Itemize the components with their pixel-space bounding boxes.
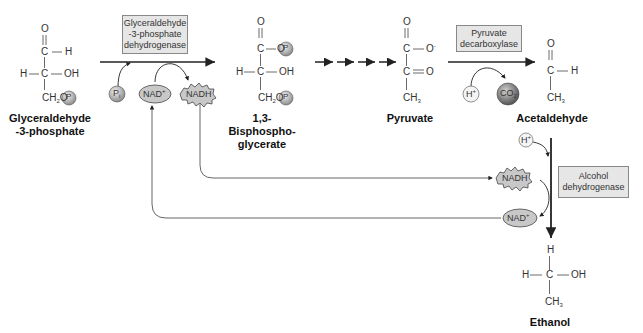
atom-ch3: CH3 — [545, 296, 563, 308]
atom: O — [547, 38, 555, 49]
enzyme-gapdh-line3: dehydrogenase — [124, 40, 187, 51]
atom: C — [41, 46, 48, 57]
atom: H — [571, 65, 578, 76]
atom: O — [257, 16, 265, 27]
nadh-label-1: NADH — [186, 89, 212, 99]
compound-g3p: Glyceraldehyde -3-phosphate — [5, 112, 95, 138]
pathway-graphics — [0, 0, 643, 333]
enzyme-gapdh-line2: -3-phosphate — [124, 29, 187, 40]
enzyme-adh: Alcohol dehydrogenase — [558, 166, 629, 198]
h-plus-label-1: H+ — [466, 88, 476, 99]
atom: O — [426, 66, 434, 77]
compound-bpg-line1: 1,3-Bisphospho- — [222, 112, 302, 138]
atom: O — [403, 16, 411, 27]
atom: C — [547, 65, 554, 76]
atom-ch2o: CH2O — [42, 92, 68, 104]
atom-ch2o: CH2O — [258, 92, 284, 104]
atom: C — [403, 66, 410, 77]
atom: C — [41, 68, 48, 79]
nadh-label-2: NADH — [502, 173, 528, 183]
atom: H — [20, 68, 27, 79]
compound-ethanol: Ethanol — [525, 316, 575, 329]
enzyme-pdc: Pyruvate decarboxylase — [456, 25, 522, 52]
enzyme-pdc-line1: Pyruvate — [460, 28, 518, 39]
nad-label-2: NAD+ — [507, 212, 530, 223]
atom: OH — [64, 68, 79, 79]
atom: H — [547, 244, 554, 255]
enzyme-adh-line2: dehydrogenase — [562, 182, 624, 193]
compound-acetaldehyde: Acetaldehyde — [512, 112, 592, 125]
pi-curve — [118, 63, 130, 88]
h-plus-label-2: H+ — [521, 134, 531, 145]
compound-bpg: 1,3-Bisphospho- glycerate — [222, 112, 302, 151]
compound-g3p-line2: -3-phosphate — [5, 125, 95, 138]
atom: H — [65, 46, 72, 57]
phosphate-label: P — [283, 43, 288, 52]
pi-label: Pi — [113, 88, 120, 99]
nad-label-1: NAD+ — [143, 88, 166, 99]
compound-pyruvate: Pyruvate — [380, 112, 440, 125]
h-co2-curve — [471, 68, 505, 87]
atom: O — [41, 23, 49, 34]
atom-ch3: CH3 — [403, 92, 421, 104]
atom: C — [257, 66, 264, 77]
atom: H — [522, 269, 529, 280]
atom: C — [403, 43, 410, 54]
atom: OH — [279, 66, 294, 77]
enzyme-adh-line1: Alcohol — [562, 171, 624, 182]
atom: H — [236, 66, 243, 77]
atom: O- — [426, 43, 436, 54]
enzyme-pdc-line2: decarboxylase — [460, 39, 518, 50]
compound-bpg-line2: glycerate — [222, 138, 302, 151]
enzyme-gapdh-line1: Glyceraldehyde — [124, 18, 187, 29]
nad-return-line — [152, 106, 501, 218]
atom: C — [257, 43, 264, 54]
phosphate-label: P — [283, 92, 288, 101]
atom-ch3: CH3 — [547, 92, 565, 104]
phosphate-label: P — [66, 92, 71, 101]
atom: OH — [571, 269, 586, 280]
co2-label: CO2 — [500, 88, 517, 99]
enzyme-gapdh: Glyceraldehyde -3-phosphate dehydrogenas… — [122, 15, 188, 54]
compound-g3p-line1: Glyceraldehyde — [5, 112, 95, 125]
atom: C — [546, 269, 553, 280]
nad-to-nadh-curve — [155, 64, 188, 82]
